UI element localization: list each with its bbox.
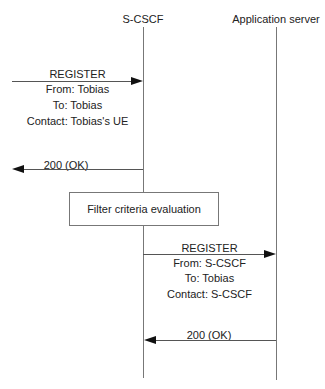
arrow-line (24, 169, 143, 170)
participant-application-server: Application server (226, 13, 325, 25)
message-label: 200 (OK) (40, 157, 92, 173)
participant-s-cscf: S-CSCF (113, 13, 173, 25)
arrow-line (155, 340, 276, 341)
message-to: To: Tobias (12, 97, 143, 113)
message-label: REGISTER (12, 66, 143, 82)
filter-criteria-box: Filter criteria evaluation (69, 192, 219, 226)
message-contact: Contact: S-CSCF (143, 286, 276, 302)
process-label: Filter criteria evaluation (87, 203, 201, 215)
message-from: From: S-CSCF (143, 255, 276, 271)
message-contact: Contact: Tobias's UE (12, 113, 143, 129)
message-to: To: Tobias (143, 270, 276, 286)
message-from: From: Tobias (12, 81, 143, 97)
arrow-left-icon (144, 336, 156, 344)
arrow-left-icon (12, 165, 24, 173)
application-server-lifeline (276, 27, 277, 380)
